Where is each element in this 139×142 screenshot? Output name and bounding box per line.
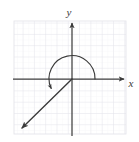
coordinate-plane-svg: y x xyxy=(0,0,139,142)
grid-background xyxy=(14,21,126,134)
y-axis-label: y xyxy=(66,6,72,18)
angle-diagram-figure: y x xyxy=(0,0,139,142)
x-axis-label: x xyxy=(128,77,134,89)
